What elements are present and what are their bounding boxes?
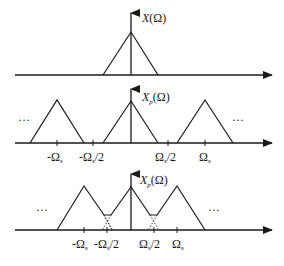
spectrum-diagram: X(Ω) Xp(Ω) ··· ··· -Ωs -Ωs/2 Ωs/2 Ωs [0, 0, 284, 266]
tick-label-neg-omega-s: -Ωs [47, 150, 63, 165]
spectrum-label: X(Ω) [141, 11, 166, 25]
spectrum-label: Xp(Ω) [139, 173, 168, 189]
tick-label-half-omega-s: Ωs/2 [139, 237, 160, 252]
ellipsis-right: ··· [208, 203, 220, 217]
tick-label-half-omega-s: Ωs/2 [155, 150, 176, 165]
panel-sampled-spectrum: Xp(Ω) ··· ··· -Ωs -Ωs/2 Ωs/2 Ωs [15, 89, 272, 165]
overlap-left [104, 215, 112, 230]
overlap-left-b [103, 215, 111, 229]
replica-right [177, 100, 233, 143]
ellipsis-right: ··· [232, 113, 244, 127]
tick-label-neg-omega-s: -Ωs [72, 237, 88, 252]
tick-label-neg-half-omega-s: -Ωs/2 [94, 237, 119, 252]
overlap-right-b [149, 215, 157, 229]
tick-label-neg-half-omega-s: -Ωs/2 [79, 150, 104, 165]
tick-label-omega-s: Ωs [199, 150, 211, 165]
spectrum-label: Xp(Ω) [141, 90, 170, 106]
panel-aliased-spectrum: Xp(Ω) ··· ··· -Ωs -Ωs/2 Ωs/2 Ωs [15, 173, 272, 252]
replica-left [30, 100, 84, 143]
ellipsis-left: ··· [18, 113, 30, 127]
overlap-right-a [150, 215, 158, 229]
overlap-left-a [104, 215, 112, 229]
tick-label-omega-s: Ωs [172, 237, 184, 252]
ellipsis-left: ··· [36, 203, 48, 217]
panel-original-spectrum: X(Ω) [15, 11, 272, 75]
